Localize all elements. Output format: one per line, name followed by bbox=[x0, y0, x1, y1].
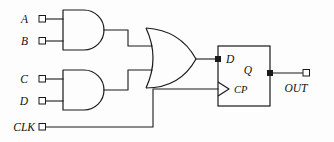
terminal-clk[interactable] bbox=[39, 124, 46, 131]
label-input-a: A bbox=[20, 13, 29, 25]
terminal-out[interactable] bbox=[303, 70, 310, 77]
and-gate-1 bbox=[63, 10, 104, 50]
label-input-clk: CLK bbox=[13, 121, 36, 133]
circuit-canvas: A B C D CLK D Q CP OUT bbox=[0, 0, 334, 142]
label-output-out: OUT bbox=[284, 82, 309, 94]
wire-and1-to-or bbox=[104, 30, 152, 46]
label-pin-cp: CP bbox=[234, 84, 248, 95]
terminal-c[interactable] bbox=[39, 76, 46, 83]
label-input-c: C bbox=[20, 73, 28, 85]
label-input-d: D bbox=[19, 95, 29, 107]
terminal-b[interactable] bbox=[39, 38, 46, 45]
wire-and2-to-or bbox=[104, 70, 152, 90]
label-input-b: B bbox=[21, 35, 28, 47]
circuit-diagram: A B C D CLK D Q CP OUT bbox=[0, 0, 334, 142]
wire-clk-to-cp bbox=[45, 89, 218, 127]
label-pin-q: Q bbox=[244, 64, 253, 76]
clock-edge-triangle-icon bbox=[218, 82, 229, 96]
and-gate-2 bbox=[63, 70, 104, 110]
terminal-d[interactable] bbox=[39, 98, 46, 105]
terminal-a[interactable] bbox=[39, 16, 46, 23]
or-gate-lower bbox=[146, 59, 196, 88]
or-gate-back bbox=[146, 28, 153, 88]
label-pin-d: D bbox=[225, 53, 235, 65]
